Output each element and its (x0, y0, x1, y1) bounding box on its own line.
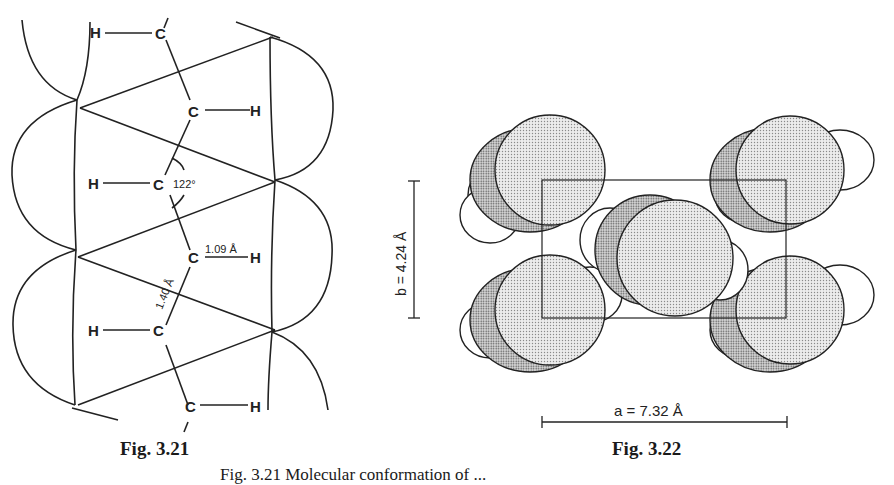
atom-c: C (153, 176, 164, 193)
molecule-packing-diagram (460, 115, 874, 372)
atom-c: C (155, 25, 166, 42)
caption-text-partial: Fig. 3.21 Molecular conformation of ... (220, 465, 486, 485)
atom-c: C (188, 249, 199, 266)
figure-3-21-label: Fig. 3.21 (120, 438, 189, 460)
atom-c: C (153, 322, 164, 339)
axis-b-label: b = 4.24 Å (393, 231, 409, 296)
zigzag-chain-diagram (12, 18, 333, 432)
atom-c: C (185, 398, 196, 415)
atom-h: H (90, 24, 101, 41)
angle-label: 122° (173, 178, 196, 190)
atom-h: H (250, 102, 261, 119)
atom-h: H (250, 249, 261, 266)
b-axis-indicator (408, 181, 420, 318)
figure-3-22-label: Fig. 3.22 (612, 438, 681, 460)
atom-c: C (188, 103, 199, 120)
atom-h: H (88, 175, 99, 192)
atom-h: H (250, 398, 261, 415)
axis-a-label: a = 7.32 Å (614, 402, 683, 419)
cc-bond-label: 1.40 Å (153, 276, 176, 311)
ch-bond-label: 1.09 Å (205, 243, 237, 255)
atom-h: H (88, 322, 99, 339)
